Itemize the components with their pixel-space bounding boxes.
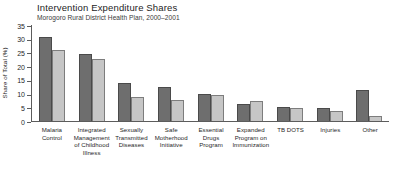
category-label: EssentialDrugsProgram (191, 126, 231, 156)
bar (171, 100, 184, 121)
bar (158, 87, 171, 121)
bar-group (72, 25, 112, 121)
category-label-line: Transmitted (113, 134, 151, 142)
category-label: SafeMotherhoodInitiative (151, 126, 191, 156)
bar-groups (32, 25, 389, 121)
category-label-line: Diseases (113, 141, 151, 149)
category-label-line: Integrated (73, 126, 111, 134)
bar (198, 94, 211, 121)
bar (211, 95, 224, 121)
category-label-line: Management (73, 134, 111, 142)
title-block: Intervention Expenditure Shares Morogoro… (37, 2, 180, 22)
bar (330, 111, 343, 121)
category-label: Injuries (310, 126, 350, 156)
chart-title: Intervention Expenditure Shares (37, 2, 180, 13)
category-label: IntegratedManagementof ChildhoodIllness (72, 126, 112, 156)
y-tick-label: 5 (21, 104, 25, 113)
y-tick-15: 15 (27, 81, 31, 82)
chart-figure: Intervention Expenditure Shares Morogoro… (0, 0, 399, 173)
bar (237, 104, 250, 121)
bar (290, 108, 303, 121)
bar-group (310, 25, 350, 121)
category-label: SexuallyTransmittedDiseases (112, 126, 152, 156)
category-label-line: Expanded (232, 126, 270, 134)
category-label-line: Drugs (192, 134, 230, 142)
category-label-line: Malaria (33, 126, 71, 134)
category-label-line: TB DOTS (272, 126, 310, 134)
y-tick-25: 25 (27, 53, 31, 54)
y-tick-35: 35 (27, 26, 31, 27)
category-label-line: Other (351, 126, 389, 134)
category-label-line: Control (33, 134, 71, 142)
category-label-line: Sexually (113, 126, 151, 134)
category-label-line: of Childhood (73, 141, 111, 149)
bar-group (151, 25, 191, 121)
y-tick-label: 10 (17, 90, 25, 99)
y-tick-label: 15 (17, 76, 25, 85)
y-tick-10: 10 (27, 95, 31, 96)
y-tick-label: 20 (17, 63, 25, 72)
bar (79, 54, 92, 121)
category-label: TB DOTS (271, 126, 311, 156)
bar (118, 83, 131, 121)
bar (369, 116, 382, 121)
y-tick-30: 30 (27, 40, 31, 41)
bar (250, 101, 263, 121)
y-tick-0: 0 (27, 122, 31, 123)
bar-group (111, 25, 151, 121)
x-axis-category-labels: MalariaControlIntegratedManagementof Chi… (32, 126, 390, 156)
bar (131, 97, 144, 121)
category-label-line: Program on (232, 134, 270, 142)
chart-subtitle: Morogoro Rural District Health Plan, 200… (37, 13, 180, 22)
category-label-line: Illness (73, 149, 111, 157)
category-label: ExpandedProgram onImmunization (231, 126, 271, 156)
y-tick-label: 25 (17, 49, 25, 58)
x-axis-line (31, 121, 389, 122)
y-tick-label: 30 (17, 35, 25, 44)
category-label: MalariaControl (32, 126, 72, 156)
category-label-line: Essential (192, 126, 230, 134)
bar-group (191, 25, 231, 121)
bar (92, 59, 105, 121)
category-label-line: Initiative (152, 141, 190, 149)
y-axis-label: Share of Total (%) (1, 0, 8, 43)
bar (277, 107, 290, 121)
bar-group (32, 25, 72, 121)
y-axis-label-text: Share of Total (%) (1, 43, 8, 103)
bar (39, 37, 52, 121)
bar (356, 90, 369, 121)
bar (52, 50, 65, 121)
category-label-line: Motherhood (152, 134, 190, 142)
y-tick-5: 5 (27, 108, 31, 109)
category-label-line: Immunization (232, 141, 270, 149)
y-tick-20: 20 (27, 67, 31, 68)
y-tick-label: 35 (17, 22, 25, 31)
category-label-line: Safe (152, 126, 190, 134)
category-label: Other (350, 126, 390, 156)
bar-group (349, 25, 389, 121)
category-label-line: Program (192, 141, 230, 149)
bar-group (230, 25, 270, 121)
y-tick-label: 0 (21, 118, 25, 127)
category-label-line: Injuries (311, 126, 349, 134)
plot-area: 05101520253035 (31, 25, 389, 122)
bar (317, 108, 330, 121)
bar-group (270, 25, 310, 121)
